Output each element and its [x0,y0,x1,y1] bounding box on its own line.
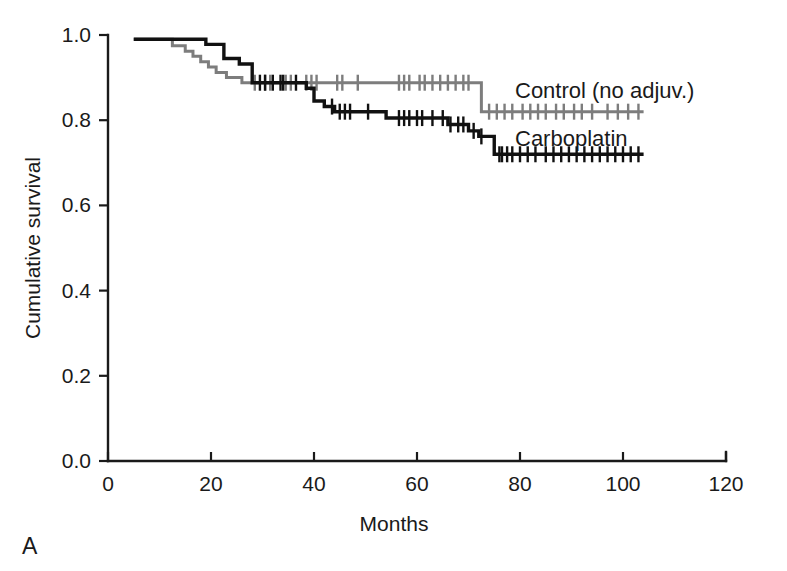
y-tick-label: 0.6 [62,193,91,216]
series-label-carboplatin: Carboplatin [515,126,628,151]
y-axis-label: Cumulative survival [21,157,44,339]
x-tick-label: 120 [708,472,743,495]
y-tick-label: 0.2 [62,364,91,387]
x-tick-label: 80 [508,472,531,495]
panel-letter: A [22,533,38,559]
x-tick-label: 40 [302,472,325,495]
y-tick-label: 1.0 [62,23,91,46]
series-label-control: Control (no adjuv.) [515,78,694,103]
y-tick-label: 0.4 [62,279,92,302]
x-tick-label: 0 [102,472,114,495]
y-tick-label: 0.0 [62,449,91,472]
y-tick-label: 0.8 [62,108,91,131]
x-tick-label: 20 [199,472,222,495]
x-tick-label: 60 [405,472,428,495]
survival-curve-figure: 0.00.20.40.60.81.0 020406080100120 Contr… [0,0,787,571]
x-tick-label: 100 [605,472,640,495]
x-axis-label: Months [360,512,429,535]
